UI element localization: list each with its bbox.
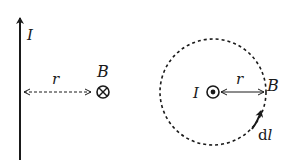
dl-label: dl <box>258 126 273 144</box>
field-into-page-icon <box>97 86 109 98</box>
distance-label-right: r <box>236 70 244 88</box>
current-label-left: I <box>26 26 34 44</box>
diagram-canvas: I r B I r B dl <box>0 0 293 165</box>
field-label-right: B <box>266 76 279 95</box>
left-panel: I r B <box>20 18 109 160</box>
current-out-of-page-icon <box>207 86 219 98</box>
dl-label-d: d <box>258 126 268 144</box>
right-panel: I r B dl <box>160 39 279 145</box>
current-label-right: I <box>192 84 200 102</box>
field-label-left: B <box>96 62 109 81</box>
dl-label-l: l <box>268 126 273 144</box>
distance-label-left: r <box>52 70 60 88</box>
